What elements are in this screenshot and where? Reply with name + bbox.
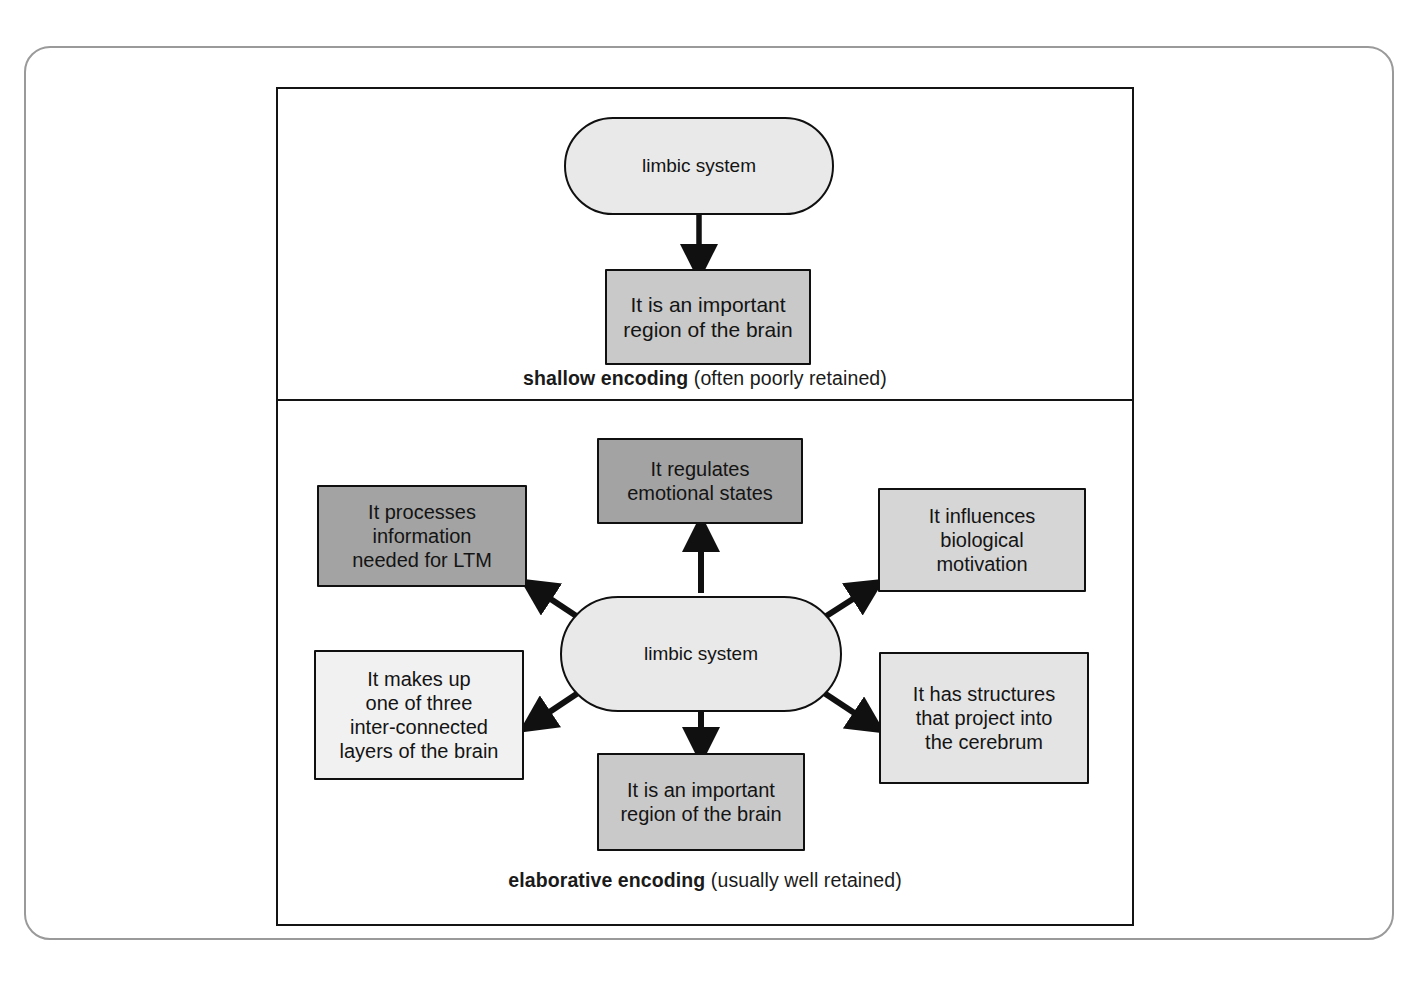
node-important-region-shallow: It is an important region of the brain [605,269,811,365]
node-important-region-elaborative: It is an important region of the brain [597,753,805,851]
node-makes-up-layers-of-brain: It makes up one of three inter-connected… [314,650,524,780]
caption-shallow-strong: shallow encoding [523,367,688,389]
panel-elaborative-encoding: It regulates emotional states It process… [278,401,1132,924]
caption-elaborative-normal: (usually well retained) [705,869,901,891]
node-processes-information-ltm: It processes information needed for LTM [317,485,527,587]
node-influences-biological-motivation: It influences biological motivation [878,488,1086,592]
diagram-panel-stack: limbic system It is an important region … [276,87,1134,926]
caption-shallow-encoding: shallow encoding (often poorly retained) [278,367,1132,390]
node-structures-project-into-cerebrum: It has structures that project into the … [879,652,1089,784]
node-regulates-emotional-states: It regulates emotional states [597,438,803,524]
figure-root: limbic system It is an important region … [0,0,1422,984]
node-limbic-system-elaborative: limbic system [560,596,842,712]
caption-elaborative-strong: elaborative encoding [508,869,705,891]
caption-shallow-normal: (often poorly retained) [688,367,887,389]
panel-shallow-encoding: limbic system It is an important region … [278,89,1132,401]
node-limbic-system-shallow: limbic system [564,117,834,215]
caption-elaborative-encoding: elaborative encoding (usually well retai… [278,869,1132,892]
